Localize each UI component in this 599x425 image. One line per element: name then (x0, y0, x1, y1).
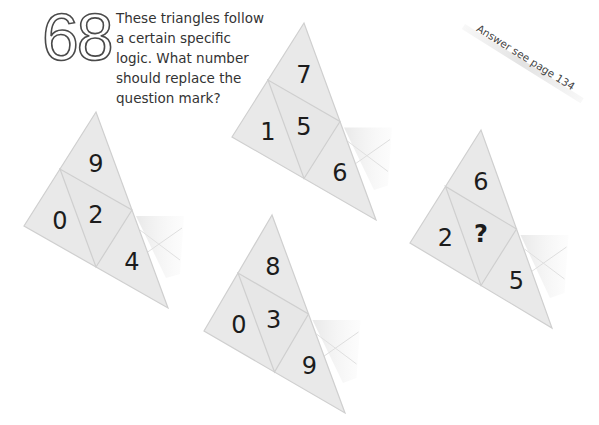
cell-value-center: 5 (296, 113, 311, 141)
cell-value-right: 5 (509, 267, 524, 295)
cell-value-left: 0 (52, 207, 67, 235)
triangle-top-center: 7156 (232, 23, 392, 220)
cell-value-top: 7 (296, 61, 311, 89)
cell-value-right: 6 (332, 159, 347, 187)
triangle-left: 9024 (24, 112, 184, 308)
cell-value-left: 0 (231, 311, 246, 339)
triangle-right: 62?5 (410, 130, 569, 328)
cell-value-center: ? (474, 220, 488, 248)
cell-value-right: 4 (124, 248, 139, 276)
triangle-puzzle-board: 71569024803962?5 (0, 0, 599, 425)
triangle-bottom-center: 8039 (204, 215, 361, 413)
cell-value-left: 1 (260, 118, 275, 146)
cell-value-right: 9 (302, 352, 317, 380)
cell-value-top: 6 (473, 168, 488, 196)
cell-value-center: 3 (266, 306, 281, 334)
cell-value-top: 9 (88, 150, 103, 178)
cell-value-top: 8 (265, 253, 280, 281)
cell-value-center: 2 (88, 201, 103, 229)
cell-value-left: 2 (438, 224, 453, 252)
